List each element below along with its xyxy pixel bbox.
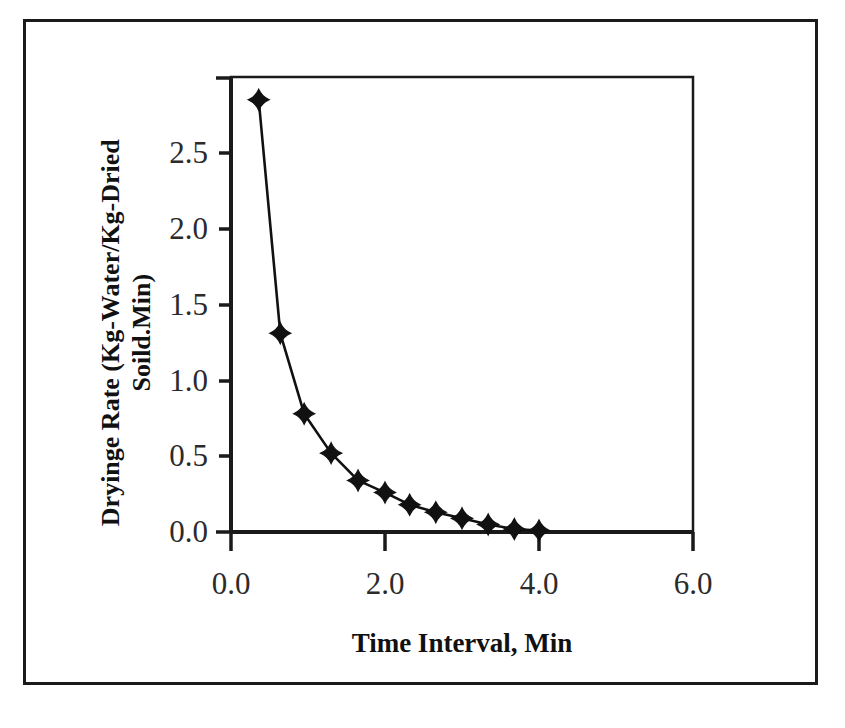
y-axis-title: Dryinge Rate (Kg-Water/Kg-Dried Soild.Mi… [96,98,157,568]
y-axis-title-line2: Soild.Min) [127,274,156,392]
y-tick-marks [216,78,231,532]
xtick-label-4-0: 4.0 [520,566,559,602]
x-tick-marks [231,532,693,551]
xtick-label-2-0: 2.0 [366,566,405,602]
y-axis-title-line1: Dryinge Rate (Kg-Water/Kg-Dried [96,139,125,526]
xtick-label-6-0: 6.0 [674,566,713,602]
x-axis-title: Time Interval, Min [231,628,693,659]
chart-plot-area: 2.5 2.0 1.5 1.0 0.5 0.0 0.0 2.0 4.0 6.0 … [0,0,845,728]
figure-canvas: 2.5 2.0 1.5 1.0 0.5 0.0 0.0 2.0 4.0 6.0 … [0,0,845,728]
plot-box [231,77,693,532]
xtick-label-0-0: 0.0 [212,566,251,602]
plot-frame [231,77,693,532]
